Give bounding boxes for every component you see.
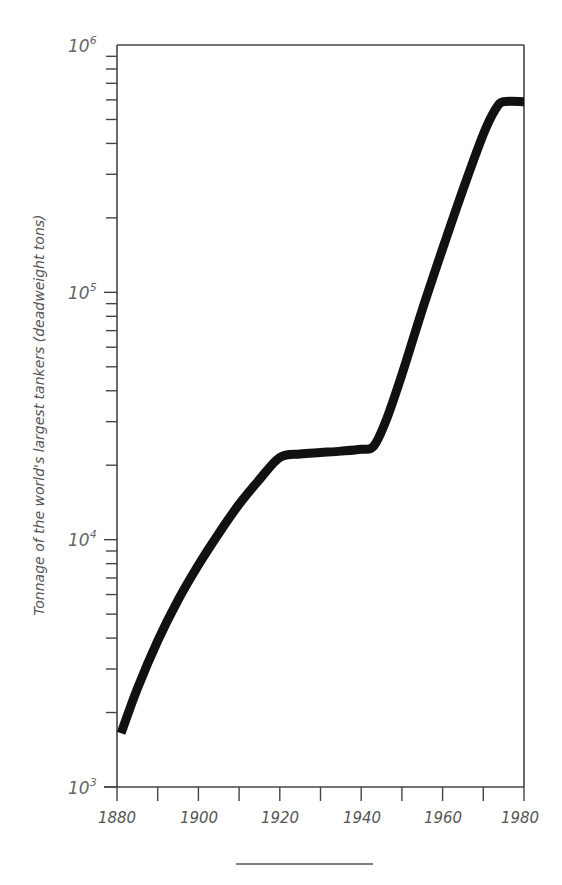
y-axis-title: Tonnage of the world's largest tankers (… — [31, 214, 47, 615]
x-tick-labels: 1880 1900 1920 1940 1960 1980 — [98, 809, 539, 827]
x-label-1940: 1940 — [343, 809, 381, 827]
y-label-1e5: 105 — [68, 281, 97, 303]
y-label-1e4: 104 — [68, 528, 97, 550]
y-label-1e6: 106 — [68, 34, 97, 56]
chart: 106 105 104 103 1880 1900 1920 1940 1960… — [0, 0, 562, 885]
x-label-1920: 1920 — [261, 809, 299, 827]
y-axis-ticks — [104, 56, 117, 787]
y-label-1e3: 103 — [68, 776, 97, 798]
x-label-1980: 1980 — [501, 809, 539, 827]
x-label-1960: 1960 — [424, 809, 462, 827]
data-series-line — [121, 101, 524, 733]
plot-frame — [104, 45, 524, 787]
y-tick-labels: 106 105 104 103 — [68, 34, 97, 798]
x-label-1900: 1900 — [180, 809, 218, 827]
x-label-1880: 1880 — [98, 809, 136, 827]
x-axis-ticks — [117, 787, 524, 801]
